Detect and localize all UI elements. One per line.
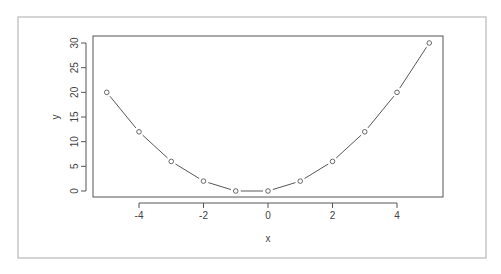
y-tick-label: 15 <box>69 111 80 123</box>
data-point-marker <box>362 130 367 135</box>
line-segment <box>400 47 427 88</box>
y-tick-label: 5 <box>69 163 80 169</box>
x-tick-label: -4 <box>135 210 144 221</box>
data-point-marker <box>330 159 335 164</box>
data-series <box>104 41 431 194</box>
y-tick-label: 20 <box>69 86 80 98</box>
line-segment <box>110 96 136 128</box>
x-axis-label: x <box>266 233 271 244</box>
line-segment <box>176 164 200 179</box>
outer-frame <box>18 17 486 258</box>
line-segment <box>336 135 361 158</box>
x-tick-label: 4 <box>394 210 400 221</box>
data-point-marker <box>298 179 303 184</box>
x-tick-label: 2 <box>330 210 336 221</box>
y-tick-label: 0 <box>69 188 80 194</box>
data-point-marker <box>395 90 400 95</box>
y-axis: 051015202530 <box>69 37 86 194</box>
data-point-marker <box>266 189 271 194</box>
data-point-marker <box>427 41 432 46</box>
x-tick-label: -2 <box>199 210 208 221</box>
data-point-marker <box>137 130 142 135</box>
y-axis-label: y <box>50 115 61 120</box>
y-tick-label: 30 <box>69 37 80 49</box>
line-segment <box>368 96 394 128</box>
y-tick-label: 10 <box>69 136 80 148</box>
line-segment <box>273 183 296 190</box>
line-segment <box>208 183 231 190</box>
line-segment <box>143 135 168 158</box>
x-tick-label: 0 <box>265 210 271 221</box>
data-point-marker <box>233 189 238 194</box>
y-tick-label: 25 <box>69 62 80 74</box>
data-point-marker <box>169 159 174 164</box>
line-segment <box>305 164 329 179</box>
plot-area <box>93 36 443 197</box>
chart-canvas: 051015202530 -4-2024 x y <box>0 0 501 274</box>
data-point-marker <box>104 90 109 95</box>
x-axis: -4-2024 <box>135 203 401 221</box>
data-point-marker <box>201 179 206 184</box>
